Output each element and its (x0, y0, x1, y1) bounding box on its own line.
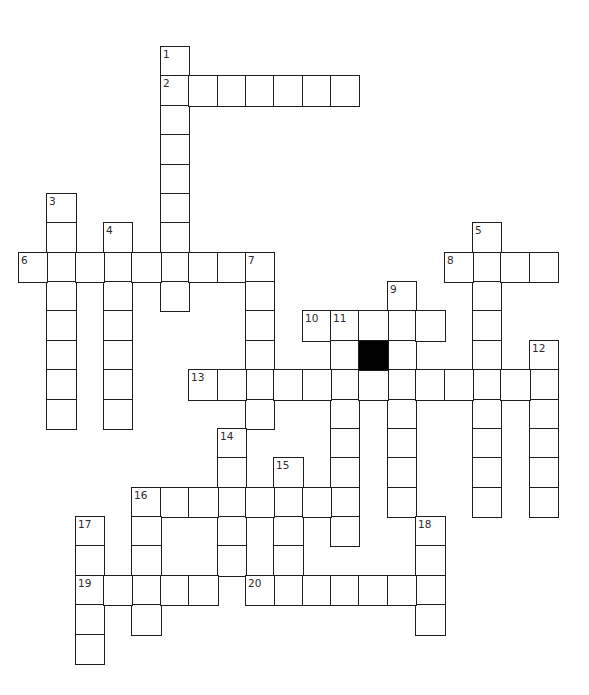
grid-cell[interactable] (217, 487, 247, 518)
grid-cell[interactable] (472, 399, 502, 430)
grid-cell[interactable] (160, 281, 190, 312)
grid-cell[interactable] (131, 575, 162, 606)
grid-cell[interactable] (103, 340, 133, 371)
grid-cell[interactable]: 12 (529, 340, 559, 371)
grid-cell[interactable]: 4 (103, 222, 133, 254)
grid-cell[interactable] (472, 252, 502, 283)
grid-cell[interactable] (529, 399, 559, 430)
grid-cell[interactable] (160, 193, 190, 224)
grid-cell[interactable] (387, 340, 417, 371)
grid-cell[interactable] (103, 252, 133, 283)
grid-cell[interactable]: 17 (75, 516, 105, 547)
grid-cell[interactable] (387, 457, 417, 489)
grid-cell[interactable] (160, 575, 190, 606)
grid-cell[interactable] (387, 487, 417, 518)
grid-cell[interactable] (330, 575, 360, 606)
grid-cell[interactable] (217, 369, 247, 401)
grid-cell[interactable]: 3 (46, 193, 77, 224)
grid-cell[interactable] (330, 516, 360, 547)
grid-cell[interactable] (444, 369, 474, 401)
grid-cell[interactable] (160, 487, 190, 518)
grid-cell[interactable] (160, 164, 190, 195)
grid-cell[interactable] (387, 428, 417, 459)
grid-cell[interactable] (330, 369, 360, 401)
grid-cell[interactable] (160, 252, 190, 283)
grid-cell[interactable] (46, 369, 77, 401)
grid-cell[interactable] (529, 252, 559, 283)
grid-cell[interactable] (330, 428, 360, 459)
grid-cell[interactable]: 19 (75, 575, 105, 606)
grid-cell[interactable]: 13 (188, 369, 219, 401)
grid-cell[interactable] (103, 575, 133, 606)
grid-cell[interactable]: 16 (131, 487, 162, 518)
grid-cell[interactable] (358, 310, 389, 342)
grid-cell[interactable] (245, 75, 275, 107)
grid-cell[interactable] (188, 252, 219, 283)
grid-cell[interactable] (131, 604, 162, 636)
grid-cell[interactable] (415, 575, 446, 606)
grid-cell[interactable] (245, 369, 275, 401)
grid-cell[interactable] (103, 369, 133, 401)
grid-cell[interactable] (273, 516, 304, 547)
grid-cell[interactable] (302, 575, 332, 606)
grid-cell[interactable]: 14 (217, 428, 247, 459)
grid-cell[interactable] (529, 428, 559, 459)
grid-cell[interactable] (46, 399, 77, 430)
grid-cell[interactable] (217, 252, 247, 283)
grid-cell[interactable] (415, 545, 446, 577)
grid-cell[interactable] (415, 604, 446, 636)
grid-cell[interactable] (160, 222, 190, 254)
grid-cell[interactable] (273, 369, 304, 401)
grid-cell[interactable] (160, 105, 190, 136)
grid-cell[interactable] (529, 487, 559, 518)
grid-cell[interactable] (131, 516, 162, 547)
grid-cell[interactable] (245, 399, 275, 430)
grid-cell[interactable]: 1 (160, 46, 190, 77)
grid-cell[interactable] (472, 487, 502, 518)
grid-cell[interactable] (245, 487, 275, 518)
grid-cell[interactable] (75, 252, 105, 283)
grid-cell[interactable] (415, 310, 446, 342)
grid-cell[interactable] (131, 545, 162, 577)
grid-cell[interactable] (387, 369, 417, 401)
grid-cell[interactable] (302, 369, 332, 401)
grid-cell[interactable] (472, 310, 502, 342)
grid-cell[interactable] (217, 457, 247, 489)
grid-cell[interactable] (358, 575, 389, 606)
grid-cell[interactable] (330, 340, 360, 371)
grid-cell[interactable] (472, 340, 502, 371)
grid-cell[interactable]: 20 (245, 575, 275, 606)
grid-cell[interactable] (273, 75, 304, 107)
grid-cell[interactable]: 2 (160, 75, 190, 107)
grid-cell[interactable] (330, 75, 360, 107)
grid-cell[interactable] (273, 545, 304, 577)
grid-cell[interactable] (46, 222, 77, 254)
grid-cell[interactable] (302, 75, 332, 107)
grid-cell[interactable] (358, 369, 389, 401)
grid-cell[interactable] (188, 487, 219, 518)
grid-cell[interactable]: 18 (415, 516, 446, 547)
grid-cell[interactable] (188, 75, 219, 107)
grid-cell[interactable] (131, 252, 162, 283)
grid-cell[interactable]: 10 (302, 310, 332, 342)
grid-cell[interactable] (46, 310, 77, 342)
grid-cell[interactable]: 6 (18, 252, 48, 283)
grid-cell[interactable]: 7 (245, 252, 275, 283)
grid-cell[interactable] (472, 428, 502, 459)
grid-cell[interactable]: 8 (444, 252, 474, 283)
grid-cell[interactable] (472, 369, 502, 401)
grid-cell[interactable] (330, 487, 360, 518)
grid-cell[interactable] (160, 134, 190, 166)
grid-cell[interactable] (75, 545, 105, 577)
grid-cell[interactable] (472, 457, 502, 489)
grid-cell[interactable] (387, 575, 417, 606)
grid-cell[interactable] (472, 281, 502, 312)
grid-cell[interactable] (529, 369, 559, 401)
grid-cell[interactable] (188, 575, 219, 606)
grid-cell[interactable] (245, 340, 275, 371)
grid-cell[interactable] (103, 281, 133, 312)
grid-cell[interactable] (302, 487, 332, 518)
grid-cell[interactable] (529, 457, 559, 489)
grid-cell[interactable]: 15 (273, 457, 304, 489)
grid-cell[interactable] (500, 252, 531, 283)
